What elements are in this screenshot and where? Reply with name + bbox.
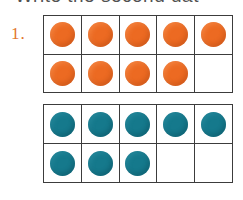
ten-frame-cell[interactable] — [81, 144, 119, 182]
teal-ten-frame — [43, 104, 233, 183]
teal-counter-icon — [50, 151, 75, 176]
orange-counter-icon — [125, 22, 150, 47]
ten-frame-cell[interactable] — [44, 144, 81, 182]
ten-frame-cell[interactable] — [119, 16, 157, 54]
ten-frame-cell[interactable] — [119, 55, 157, 93]
worksheet-page: Write the second dat 1. — [0, 0, 243, 200]
ten-frame-cell[interactable] — [81, 105, 119, 143]
ten-frame-row — [44, 143, 232, 182]
ten-frame-row — [44, 105, 232, 143]
orange-counter-icon — [88, 61, 113, 86]
teal-counter-icon — [201, 112, 226, 137]
orange-counter-icon — [50, 22, 75, 47]
ten-frame-cell[interactable] — [156, 105, 194, 143]
ten-frame-cell[interactable] — [119, 105, 157, 143]
orange-counter-icon — [163, 22, 188, 47]
ten-frame-cell[interactable] — [194, 55, 232, 93]
orange-counter-icon — [125, 61, 150, 86]
teal-counter-icon — [88, 151, 113, 176]
orange-counter-icon — [50, 61, 75, 86]
teal-counter-icon — [125, 151, 150, 176]
ten-frame-cell[interactable] — [156, 16, 194, 54]
orange-ten-frame — [43, 15, 233, 93]
ten-frame-row — [44, 16, 232, 54]
teal-counter-icon — [88, 112, 113, 137]
ten-frame-cell[interactable] — [44, 55, 81, 93]
ten-frame-cell[interactable] — [44, 105, 81, 143]
ten-frame-row — [44, 54, 232, 93]
ten-frame-cell[interactable] — [44, 16, 81, 54]
item-number-label: 1. — [11, 24, 26, 44]
teal-counter-icon — [163, 112, 188, 137]
instruction-text: Write the second dat — [15, 0, 199, 7]
ten-frame-cell[interactable] — [81, 55, 119, 93]
ten-frame-cell[interactable] — [194, 144, 232, 182]
ten-frame-cell[interactable] — [194, 105, 232, 143]
ten-frame-cell[interactable] — [119, 144, 157, 182]
ten-frame-cell[interactable] — [156, 55, 194, 93]
teal-counter-icon — [50, 112, 75, 137]
instruction-clip: Write the second dat — [0, 0, 243, 9]
ten-frame-cell[interactable] — [194, 16, 232, 54]
orange-counter-icon — [163, 61, 188, 86]
ten-frame-cell[interactable] — [81, 16, 119, 54]
teal-counter-icon — [125, 112, 150, 137]
orange-counter-icon — [201, 22, 226, 47]
ten-frame-cell[interactable] — [156, 144, 194, 182]
orange-counter-icon — [88, 22, 113, 47]
